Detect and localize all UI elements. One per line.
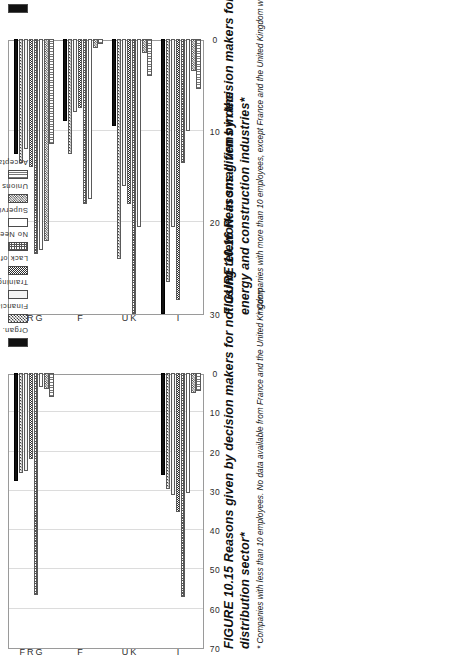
- bar-unions-i: [191, 373, 195, 393]
- bar-noneed-i: [181, 373, 185, 597]
- bar-unions-frg: [44, 373, 48, 389]
- fig-10-15-caption-title: FIGURE 10.15 Reasons given by decision m…: [222, 49, 253, 649]
- gridline: [9, 608, 203, 609]
- bar-training-frg: [24, 373, 28, 471]
- fig-10-15-caption-note: * Companies with less than 10 employees.…: [256, 49, 267, 649]
- fig-10-15-legend-label-training: Training Need: [0, 278, 28, 287]
- category-label-frg: FRG: [19, 647, 45, 657]
- fig-10-15-legend-label-noneed: No Need to Change: [0, 230, 28, 239]
- bar-financial-i: [166, 373, 170, 489]
- fig-10-16-legend-swatch-organ: [8, 4, 28, 13]
- fig-10-15-legend-label-organ: Organ. Problems: [0, 326, 28, 335]
- bar-lack-frg: [29, 373, 33, 459]
- fig-10-15-axes: [8, 374, 204, 649]
- bar-supervision-frg: [39, 373, 43, 387]
- fig-10-15-legend-swatch-supervision: [8, 218, 28, 227]
- fig-10-15-legend-swatch-organ: [8, 338, 28, 347]
- bar-lack-i: [176, 373, 180, 512]
- fig-10-15-legend-swatch-training: [8, 290, 28, 299]
- fig-10-15-legend-label-supervision: Supervision: [0, 206, 28, 215]
- bar-organ-frg: [14, 373, 18, 481]
- fig-10-15-legend-swatch-financial: [8, 314, 28, 323]
- bar-organ-i: [161, 373, 165, 475]
- fig-10-15-legend-swatch-lack: [8, 266, 28, 275]
- figure-10-15: 010203040506070 IUKFFRG Organ. ProblemsF…: [0, 27, 215, 667]
- category-label-f: F: [68, 647, 94, 657]
- fig-10-16-legend-label-organ: Organ. Problems: [0, 0, 28, 1]
- fig-10-15-legend-swatch-acceptance: [8, 170, 28, 179]
- figure-page: 0102030 IUKFFRG Organ. ProblemsFinancial…: [0, 0, 461, 667]
- bar-noneed-frg: [34, 373, 38, 595]
- fig-10-15-legend-swatch-noneed: [8, 242, 28, 251]
- category-label-uk: UK: [117, 647, 143, 657]
- bar-supervision-i: [186, 373, 190, 493]
- bar-acceptance-i: [196, 373, 200, 391]
- fig-10-15-legend-label-unions: Unions: [2, 182, 28, 191]
- bar-training-i: [171, 373, 175, 495]
- fig-10-15-caption: FIGURE 10.15 Reasons given by decision m…: [222, 49, 267, 649]
- bar-financial-frg: [19, 373, 23, 473]
- fig-10-15-legend-label-lack: Lack of Tech.: [0, 254, 28, 263]
- fig-10-15-legend-swatch-unions: [8, 194, 28, 203]
- fig-10-15-plot-area: 010203040506070 IUKFFRG: [0, 392, 196, 667]
- fig-10-15-legend-label-acceptance: Acceptance: [0, 158, 28, 167]
- bar-acceptance-frg: [49, 373, 53, 397]
- fig-10-15-legend-label-financial: Financial Problems: [0, 302, 28, 311]
- category-label-i: I: [166, 647, 192, 657]
